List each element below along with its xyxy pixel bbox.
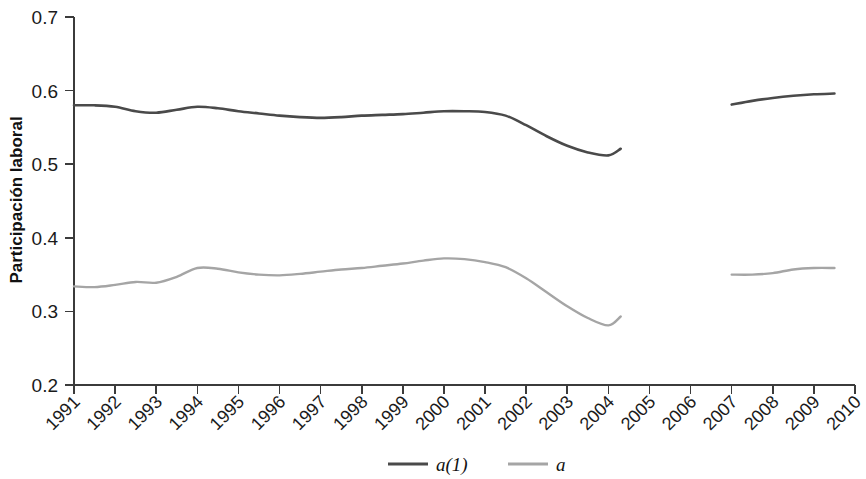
- series-line: [74, 105, 621, 155]
- y-tick-label: 0.3: [32, 301, 58, 322]
- series-line: [74, 258, 621, 325]
- x-tick-label: 1998: [329, 392, 371, 434]
- x-tick-label: 2008: [740, 392, 782, 434]
- x-tick-label: 2007: [699, 392, 741, 434]
- y-tick-label: 0.4: [32, 228, 59, 249]
- x-tick-label: 2002: [494, 392, 536, 434]
- y-tick-label: 0.2: [32, 375, 58, 396]
- x-tick-label: 2005: [617, 392, 659, 434]
- y-axis-title: Participación laboral: [7, 116, 26, 283]
- x-tick-label: 2010: [822, 392, 864, 434]
- y-axis-ticks: 0.20.30.40.50.60.7: [32, 7, 74, 396]
- legend-label: a: [556, 454, 566, 475]
- x-tick-label: 1997: [288, 392, 330, 434]
- x-tick-label: 2000: [411, 392, 453, 434]
- x-tick-label: 2003: [535, 392, 577, 434]
- axis-lines: [74, 17, 855, 385]
- x-axis-ticks: 1991199219931994199519961997199819992000…: [41, 385, 864, 434]
- x-tick-label: 1995: [206, 392, 248, 434]
- y-tick-label: 0.5: [32, 154, 58, 175]
- data-series: [74, 94, 834, 326]
- line-chart: Participación laboral 0.20.30.40.50.60.7…: [0, 0, 866, 479]
- x-tick-label: 2004: [576, 392, 618, 434]
- x-tick-label: 1994: [165, 392, 207, 434]
- series-line: [732, 268, 835, 275]
- x-tick-label: 2006: [658, 392, 700, 434]
- series-line: [732, 94, 835, 105]
- chart-container: Participación laboral 0.20.30.40.50.60.7…: [0, 0, 866, 479]
- legend-label: a(1): [436, 454, 468, 476]
- y-axis-title-text: Participación laboral: [7, 116, 26, 283]
- x-tick-label: 1992: [82, 392, 124, 434]
- y-tick-label: 0.7: [32, 7, 58, 28]
- x-tick-label: 1996: [247, 392, 289, 434]
- chart-legend: a(1)a: [388, 454, 566, 476]
- x-tick-label: 2009: [781, 392, 823, 434]
- x-tick-label: 1993: [124, 392, 166, 434]
- x-tick-label: 1991: [41, 392, 83, 434]
- x-tick-label: 1999: [370, 392, 412, 434]
- y-tick-label: 0.6: [32, 81, 58, 102]
- x-tick-label: 2001: [452, 392, 494, 434]
- axes: [74, 17, 855, 385]
